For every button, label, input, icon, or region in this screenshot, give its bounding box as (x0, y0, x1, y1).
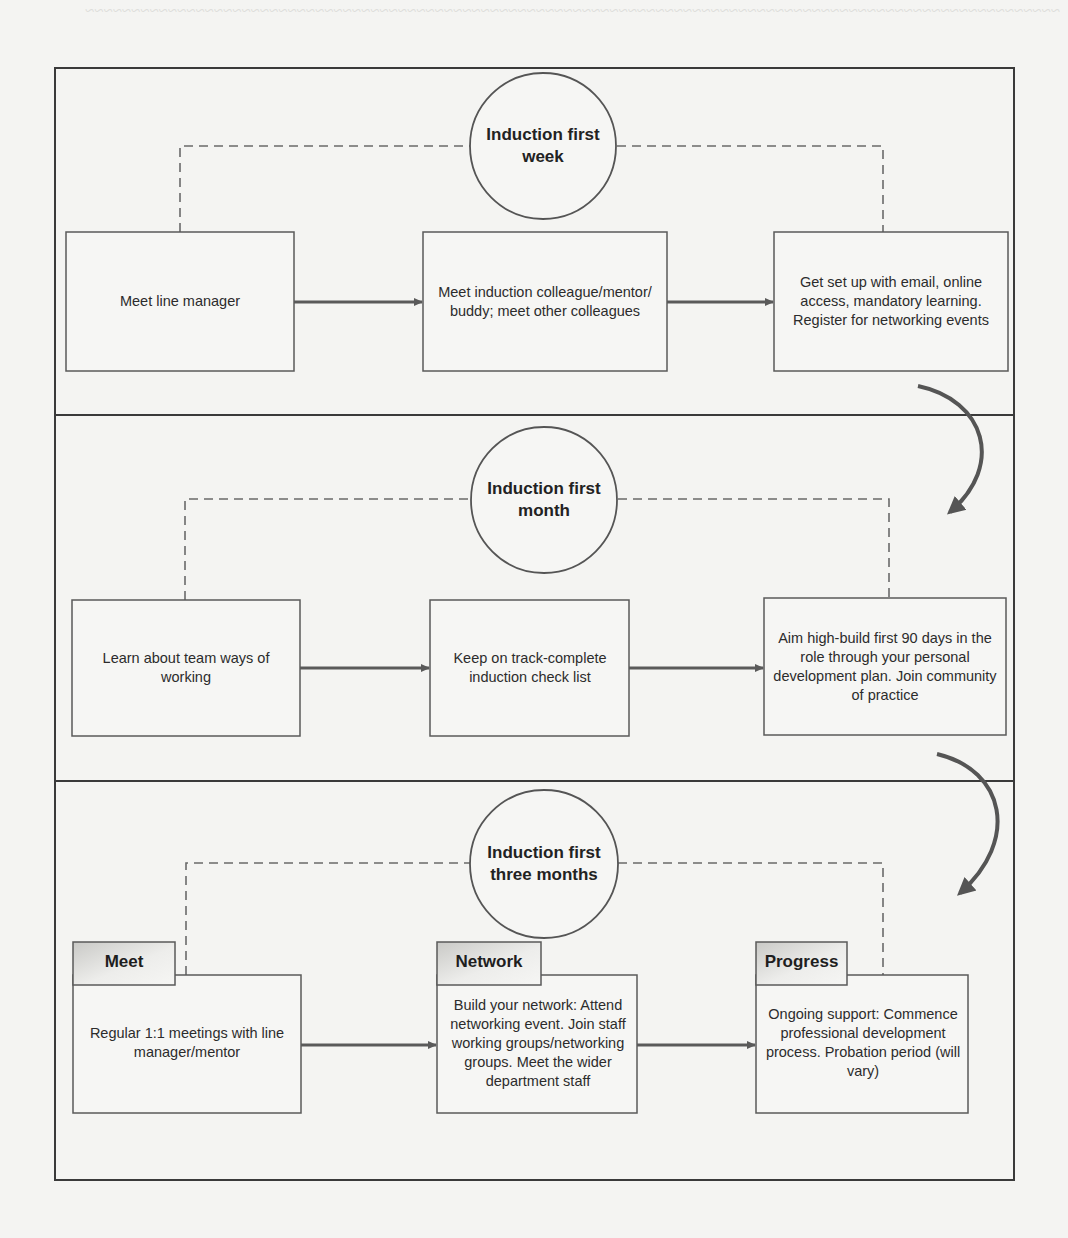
step-get-set-up: Get set up with email, online access, ma… (778, 236, 1004, 367)
curved-arrow-icon (937, 754, 998, 893)
tab-network: Network (437, 942, 541, 982)
step-build-network: Build your network: Attend networking ev… (445, 988, 631, 1098)
phase-title-first-three-months: Induction firstthree months (473, 828, 615, 900)
dashed-link (617, 146, 883, 232)
phase-title-first-month: Induction firstmonth (473, 464, 615, 536)
step-meet-colleagues: Meet induction colleague/mentor/ buddy; … (427, 236, 663, 367)
step-learn-team-ways: Learn about team ways of working (86, 604, 286, 732)
phase-title-first-week: Induction firstweek (472, 110, 614, 182)
dashed-link (180, 146, 470, 232)
step-regular-meetings: Regular 1:1 meetings with line manager/m… (77, 988, 297, 1098)
step-meet-line-manager: Meet line manager (70, 236, 290, 367)
dashed-link (186, 863, 470, 975)
dashed-link (185, 499, 471, 600)
curved-arrow-icon (918, 386, 982, 512)
step-aim-high: Aim high-build first 90 days in the role… (766, 602, 1004, 731)
step-ongoing-support: Ongoing support: Commence professional d… (764, 988, 962, 1098)
dashed-link (618, 499, 889, 598)
tab-progress: Progress (756, 942, 847, 982)
step-keep-on-track: Keep on track-complete induction check l… (440, 604, 620, 732)
tab-meet: Meet (73, 942, 175, 982)
